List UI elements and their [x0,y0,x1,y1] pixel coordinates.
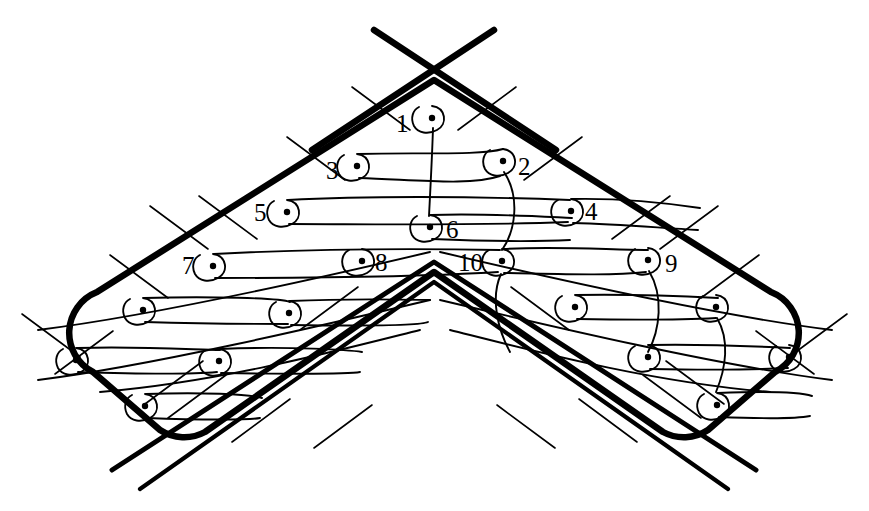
callout-label-9: 9 [665,251,678,276]
marker-dot-unlabeled [73,357,79,363]
channel-segment [503,248,648,250]
plate-outline-group [69,80,799,437]
callout-label-1: 1 [396,111,409,136]
callout-label-2: 2 [518,154,531,179]
marker-dot-6 [427,224,433,230]
marker-dot-1 [429,115,435,121]
figure-root: 1 2 3 4 5 6 7 8 9 10 [0,0,869,511]
hatch-tick [314,405,372,448]
callout-label-10: 10 [458,250,483,275]
channel-segment [358,149,503,154]
marker-dot-unlabeled [713,304,719,310]
marker-dot-3 [354,163,360,169]
bend-5 [267,200,299,227]
chevron-channel-diagram [0,0,869,511]
marker-dot-unlabeled [142,403,148,409]
channel-segment [577,318,716,320]
channel-segment [429,128,433,216]
channel-segment [359,176,500,182]
channel-segment [716,318,725,392]
callout-label-8: 8 [375,250,388,275]
plate-outer-edge [69,80,799,437]
bend-3 [337,154,369,181]
marker-dot-2 [500,158,506,164]
callout-label-6: 6 [446,217,459,242]
channel-segment [719,416,810,418]
callout-label-5: 5 [254,200,267,225]
marker-dot-unlabeled [216,358,222,364]
bend-6 [410,215,442,242]
channel-segment [718,392,812,396]
inner-chevron-line-b [140,282,728,489]
marker-dot-unlabeled [140,307,146,313]
marker-dot-8 [359,258,365,264]
bend-7 [193,254,225,281]
hatch-tick [199,196,257,239]
hatch-tick [497,405,555,448]
bend-unlabeled [555,295,587,322]
marker-dot-7 [210,263,216,269]
channel-segment [77,347,220,350]
channel-segment [145,322,288,324]
callout-label-4: 4 [585,199,598,224]
channel-segment [502,172,514,250]
marker-dot-9 [645,257,651,263]
bend-9 [628,248,660,275]
marker-dot-unlabeled [572,304,578,310]
channel-segment [649,345,790,348]
channel-segment [648,271,659,352]
channel-segment [146,393,262,398]
channel-segment [289,222,568,225]
bend-1 [412,106,444,133]
marker-dot-4 [568,208,574,214]
marker-dot-unlabeled [786,354,792,360]
marker-dot-unlabeled [286,310,292,316]
marker-dot-unlabeled [645,354,651,360]
callout-label-3: 3 [326,158,339,183]
marker-dot-10 [499,258,505,264]
callout-label-7: 7 [182,253,195,278]
bend-2 [483,149,515,176]
marker-dot-unlabeled [714,402,720,408]
marker-dot-5 [284,209,290,215]
